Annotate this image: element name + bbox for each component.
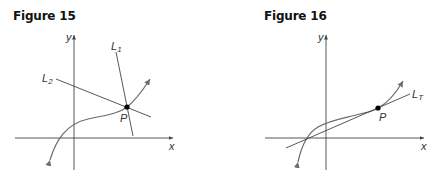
figure-16-axes: [265, 35, 424, 170]
x-axis-label: x: [169, 141, 175, 152]
point-p: [375, 105, 380, 110]
point-p-label: P: [379, 112, 386, 123]
line-lt-label: LT: [412, 89, 423, 102]
point-p-label: P: [120, 113, 127, 124]
line-l2-label: L2: [42, 73, 53, 86]
figure-15-axes: [15, 35, 173, 170]
figure-16-title: Figure 16: [264, 9, 327, 23]
y-axis-label: y: [66, 32, 72, 43]
x-axis-label: x: [421, 141, 427, 152]
point-p: [124, 104, 129, 109]
line-lt: [286, 94, 410, 148]
figure-16-curve: [298, 81, 403, 162]
figure-15-curve: [50, 79, 150, 160]
y-axis-label: y: [318, 32, 324, 43]
line-l1-label: L1: [111, 41, 122, 54]
figures-canvas: [0, 0, 435, 185]
